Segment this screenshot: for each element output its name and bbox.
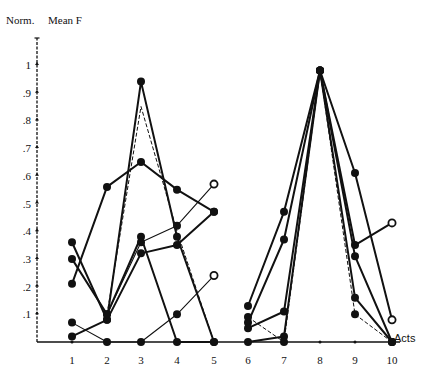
data-point	[103, 310, 111, 318]
y-axis-label-mean-f: Mean F	[48, 14, 82, 26]
data-point	[137, 338, 145, 346]
data-point	[351, 252, 359, 260]
data-point	[137, 158, 145, 166]
y-tick-mark	[35, 311, 39, 314]
y-tick-mark	[35, 228, 39, 231]
series-line	[107, 107, 214, 342]
data-point	[173, 338, 181, 346]
data-point	[137, 249, 145, 257]
x-tick-label: 10	[387, 354, 399, 366]
data-point	[68, 280, 76, 288]
x-tick-label: 5	[211, 354, 217, 366]
series-line	[248, 71, 392, 342]
y-tick-mark	[35, 173, 39, 176]
x-tick-label: 9	[352, 354, 358, 366]
data-point	[173, 310, 181, 318]
series-line	[72, 276, 214, 342]
data-point	[68, 332, 76, 340]
data-point	[103, 338, 111, 346]
series-line	[72, 162, 214, 284]
x-tick-label: 4	[174, 354, 180, 366]
x-tick-label: 3	[138, 354, 144, 366]
series-line	[248, 71, 392, 342]
data-point	[68, 319, 76, 327]
y-tick-label: .7	[23, 142, 32, 154]
y-tick-mark	[35, 284, 39, 287]
y-tick-label: .2	[23, 281, 31, 293]
data-point	[244, 338, 252, 346]
x-tick-mark	[71, 341, 74, 344]
data-point-open	[210, 181, 217, 188]
y-axis-label-norm: Norm.	[6, 14, 34, 26]
data-point	[68, 238, 76, 246]
y-tick-label: .6	[23, 170, 32, 182]
series-line	[248, 71, 392, 320]
y-tick-label: .5	[23, 198, 32, 210]
data-point	[137, 238, 145, 246]
series-line	[248, 71, 392, 342]
y-tick-mark	[35, 117, 39, 120]
x-axis-label-acts: Acts	[394, 332, 415, 344]
data-point	[210, 208, 218, 216]
data-point	[173, 222, 181, 230]
data-point	[316, 67, 324, 75]
data-point	[244, 302, 252, 310]
y-tick-label: .3	[23, 253, 32, 265]
y-tick-mark	[35, 90, 39, 93]
x-tick-label: 7	[281, 354, 287, 366]
series-line	[72, 212, 214, 320]
y-tick-mark	[35, 256, 39, 259]
y-tick-label: .4	[23, 225, 32, 237]
data-point-open	[388, 316, 395, 323]
data-point	[68, 255, 76, 263]
data-point	[351, 169, 359, 177]
x-tick-label: 1	[69, 354, 75, 366]
y-tick-label: .9	[23, 87, 32, 99]
x-tick-label: 2	[104, 354, 110, 366]
data-point-open	[388, 219, 395, 226]
data-point	[244, 313, 252, 321]
data-point	[280, 208, 288, 216]
data-point	[173, 186, 181, 194]
data-point	[103, 183, 111, 191]
y-tick-label: .8	[23, 114, 32, 126]
x-tick-mark	[319, 341, 322, 344]
y-tick-mark	[35, 201, 39, 204]
y-tick-mark	[35, 62, 39, 65]
data-point	[280, 236, 288, 244]
series-line	[72, 82, 214, 342]
series-line	[248, 71, 392, 323]
x-tick-label: 6	[245, 354, 251, 366]
y-tick-label: .1	[23, 308, 31, 320]
data-point	[280, 338, 288, 346]
y-tick-label: 1	[26, 59, 32, 71]
axes	[35, 38, 401, 344]
x-tick-label: 8	[317, 354, 323, 366]
series-lines	[68, 67, 396, 346]
data-point	[351, 310, 359, 318]
data-point-open	[210, 272, 217, 279]
y-tick-mark	[35, 145, 39, 148]
data-point	[137, 78, 145, 86]
line-chart: .1.2.3.4.5.6.7.8.9112345678910	[0, 0, 432, 381]
x-tick-mark	[354, 341, 357, 344]
data-point	[244, 324, 252, 332]
